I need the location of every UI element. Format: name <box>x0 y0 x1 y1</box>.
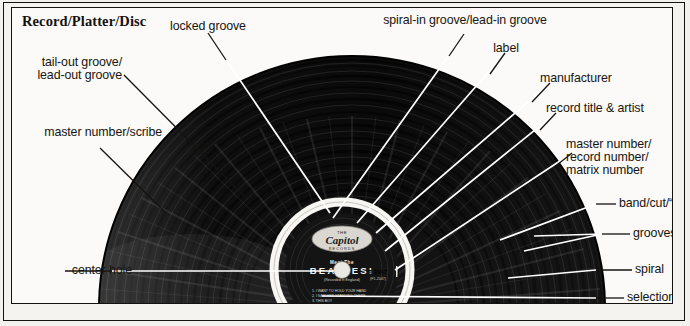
svg-text:3. THIS BOY: 3. THIS BOY <box>312 299 333 303</box>
leader-manufacturer-paper <box>532 83 550 102</box>
page-title: Record/Platter/Disc <box>22 13 146 30</box>
callout-master-number-scribe: master number/scribe <box>12 126 162 140</box>
callout-lead-out-groove: lead-out groove <box>12 69 122 83</box>
svg-text:(F1-2047): (F1-2047) <box>370 277 386 281</box>
svg-text:T 2047: T 2047 <box>368 269 387 275</box>
callout-manufacturer: manufacturer <box>540 72 612 86</box>
callout-center-hole: center hole <box>12 264 132 278</box>
callout-master-number-3: matrix number <box>566 164 644 178</box>
svg-text:Capitol: Capitol <box>325 234 359 246</box>
callout-selections: selections <box>627 291 673 304</box>
figure-page: THE Capitol RECORDS Meet The BEATLES! (R… <box>0 0 690 326</box>
callout-band-cut-track: band/cut/“track” <box>619 197 673 211</box>
callout-grooves: grooves <box>633 227 673 241</box>
record-illustration: THE Capitol RECORDS Meet The BEATLES! (R… <box>12 8 672 303</box>
svg-text:RECORDS: RECORDS <box>329 247 356 251</box>
callout-record-title-artist: record title & artist <box>546 102 644 116</box>
inner-frame: THE Capitol RECORDS Meet The BEATLES! (R… <box>11 7 673 304</box>
leader-label-paper <box>490 53 505 74</box>
callout-label: label <box>477 42 535 56</box>
svg-text:1. I WANT TO HOLD YOUR HAND: 1. I WANT TO HOLD YOUR HAND <box>312 289 367 293</box>
capitol-logo: THE Capitol RECORDS <box>312 226 372 252</box>
callout-spiral-in-groove: spiral-in groove/lead-in groove <box>345 14 585 28</box>
callout-spiral: spiral <box>635 263 664 277</box>
leader-locked-groove-paper <box>208 33 226 60</box>
leader-spiral-in-groove-paper <box>449 34 464 56</box>
callout-locked-groove: locked groove <box>144 20 272 34</box>
